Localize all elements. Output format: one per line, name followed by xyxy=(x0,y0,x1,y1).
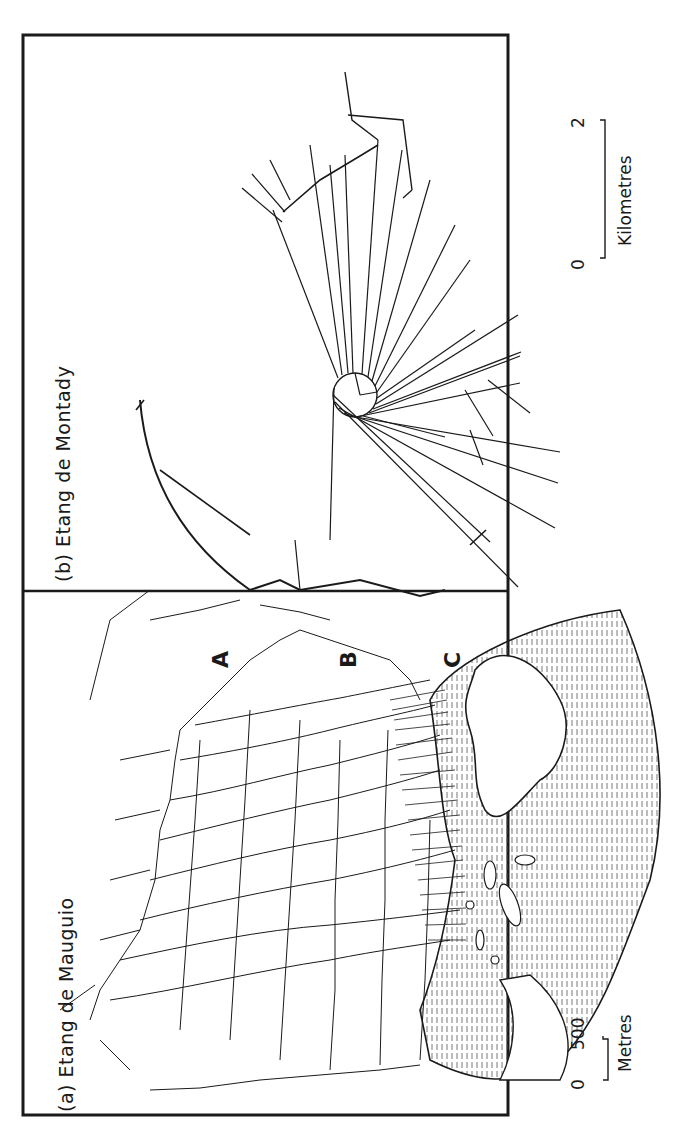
zone-label-c: C xyxy=(440,652,465,668)
panel-a-name: Etang de Mauguio xyxy=(55,897,77,1077)
kilometres-scale-bar xyxy=(600,120,605,258)
km-scale-unit: Kilometres xyxy=(615,155,635,246)
map-drawing xyxy=(0,0,695,1144)
metres-scale-start: 0 xyxy=(568,1079,588,1090)
central-pond-circle xyxy=(333,373,377,417)
panel-a-label: (a) xyxy=(55,1084,77,1112)
panel-frames xyxy=(23,35,508,1115)
montady-radial-map xyxy=(136,72,560,596)
outer-frame xyxy=(23,35,508,1115)
panel-b-label: (b) xyxy=(52,554,74,582)
metres-scale-bar xyxy=(603,1036,608,1080)
km-scale-end: 2 xyxy=(568,117,588,128)
panel-a-title: (a) Etang de Mauguio xyxy=(55,897,77,1112)
panel-b-title: (b) Etang de Montady xyxy=(52,366,74,582)
mauguio-field-parcels xyxy=(60,590,466,1090)
map-figure: (b) Etang de Montady 0 2 Kilometres (a) … xyxy=(0,0,695,1144)
metres-scale-end: 500 xyxy=(568,1018,588,1050)
zone-label-b: B xyxy=(336,651,361,668)
km-scale-start: 0 xyxy=(568,259,588,270)
mauguio-marsh xyxy=(420,610,660,1080)
zone-label-a: A xyxy=(208,651,233,668)
metres-scale-unit: Metres xyxy=(615,1014,635,1072)
panel-b-name: Etang de Montady xyxy=(52,366,74,548)
